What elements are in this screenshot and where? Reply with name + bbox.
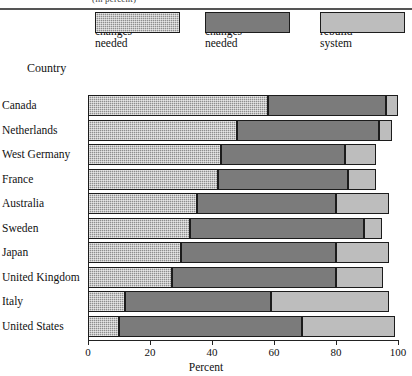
bar-segment [218, 169, 348, 190]
country-label: Japan [2, 246, 84, 258]
x-axis-tick [398, 340, 399, 345]
bar-segment [88, 169, 218, 190]
x-axis-tick [336, 340, 337, 345]
bar-segment [181, 242, 336, 263]
bar-segment [119, 316, 302, 337]
chart-caption: (in percent) [92, 0, 136, 4]
legend-swatch-minor [95, 12, 180, 33]
country-axis-label: Country [27, 61, 66, 76]
bar-segment [237, 120, 380, 141]
bar-segment [190, 218, 364, 239]
x-axis-tick [212, 340, 213, 345]
x-axis-tick-label: 100 [390, 346, 407, 358]
bar-segment [88, 291, 125, 312]
bar-segment [364, 218, 383, 239]
bar-segment [345, 144, 376, 165]
bar-segment [88, 193, 197, 214]
country-label: France [2, 173, 84, 185]
bar-segment [172, 267, 336, 288]
country-label: United Kingdom [2, 271, 84, 283]
bar-segment [88, 218, 190, 239]
x-axis-line [88, 340, 399, 341]
bar-segment [336, 267, 383, 288]
bar-segment [125, 291, 271, 312]
x-axis-tick-label: 40 [207, 346, 218, 358]
x-axis-tick-label: 60 [269, 346, 280, 358]
bar-segment [379, 120, 391, 141]
x-axis-title: Percent [0, 361, 412, 373]
bar-segment [88, 316, 119, 337]
x-axis-tick [88, 340, 89, 345]
bar-segment [268, 95, 386, 116]
header-rule [0, 8, 412, 10]
stacked-bar-chart: (in percent) Minor changes needed Fundam… [0, 0, 412, 376]
legend-swatch-rebuild [320, 12, 405, 33]
bar-segment [88, 120, 237, 141]
bar-segment [88, 242, 181, 263]
bar-segment [348, 169, 376, 190]
bar-segment [336, 242, 389, 263]
country-label: Canada [2, 99, 84, 111]
x-axis-tick [274, 340, 275, 345]
country-label: Australia [2, 197, 84, 209]
country-label: Sweden [2, 222, 84, 234]
x-axis-tick-label: 80 [331, 346, 342, 358]
bar-segment [271, 291, 389, 312]
legend-swatch-fundamental [205, 12, 290, 33]
country-label: West Germany [2, 148, 84, 160]
country-label: Netherlands [2, 124, 84, 136]
bar-segment [88, 95, 268, 116]
x-axis-tick-label: 20 [145, 346, 156, 358]
bar-segment [336, 193, 389, 214]
country-label: United States [2, 320, 84, 332]
bar-segment [221, 144, 345, 165]
bar-segment [302, 316, 395, 337]
plot-area [88, 95, 398, 340]
bar-segment [386, 95, 398, 116]
bar-segment [197, 193, 337, 214]
country-label: Italy [2, 295, 84, 307]
bar-segment [88, 267, 172, 288]
x-axis-tick-label: 0 [85, 346, 91, 358]
x-axis-tick [150, 340, 151, 345]
bar-segment [88, 144, 221, 165]
